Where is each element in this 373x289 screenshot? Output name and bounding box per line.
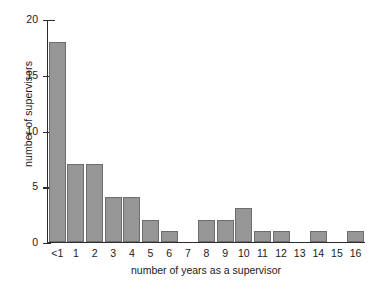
y-axis-tick: 0	[43, 243, 51, 244]
x-axis-tick-label: <1	[48, 246, 67, 260]
x-axis-tick-label: 1	[67, 246, 86, 260]
y-axis-title: number of supervisors	[22, 34, 34, 194]
y-axis-tick-label: 10	[26, 125, 38, 138]
bar[interactable]	[67, 164, 84, 242]
bar[interactable]	[198, 220, 215, 242]
x-axis-tick-label: 9	[216, 246, 235, 260]
x-axis-tick-label: 6	[160, 246, 179, 260]
x-axis-tick-labels: <112345678910111213141516	[48, 246, 365, 260]
bar[interactable]	[310, 231, 327, 242]
bar-slot	[346, 20, 365, 242]
x-axis-tick-label: 13	[290, 246, 309, 260]
bar-slot	[197, 20, 216, 242]
bar[interactable]	[254, 231, 271, 242]
x-axis-tick-label: 3	[104, 246, 123, 260]
x-axis-tick-label: 4	[123, 246, 142, 260]
bar[interactable]	[105, 197, 122, 241]
x-axis-tick-label: 2	[85, 246, 104, 260]
bar[interactable]	[347, 231, 364, 242]
y-axis-tick-label: 15	[26, 69, 38, 82]
x-axis-tick-label: 8	[197, 246, 216, 260]
bar-slot	[178, 20, 197, 242]
x-axis-tick-label: 5	[141, 246, 160, 260]
x-axis-tick-label: 10	[234, 246, 253, 260]
bar[interactable]	[49, 42, 66, 242]
bar-slot	[123, 20, 142, 242]
bar-slot	[141, 20, 160, 242]
y-axis-tick-label: 20	[26, 13, 38, 26]
bar-slot	[48, 20, 67, 242]
bar[interactable]	[235, 208, 252, 241]
x-axis-title: number of years as a supervisor	[47, 264, 365, 276]
bar-slot	[104, 20, 123, 242]
bar[interactable]	[86, 164, 103, 242]
bar-slot	[85, 20, 104, 242]
bar-slot	[328, 20, 347, 242]
bar-slot	[216, 20, 235, 242]
plot-area: 05101520	[47, 20, 365, 243]
bar-slot	[309, 20, 328, 242]
bar-slot	[160, 20, 179, 242]
bar[interactable]	[273, 231, 290, 242]
y-axis-tick-label: 0	[32, 236, 38, 249]
x-axis-tick-label: 12	[272, 246, 291, 260]
bar[interactable]	[161, 231, 178, 242]
bar-slot	[253, 20, 272, 242]
x-axis-tick-label: 11	[253, 246, 272, 260]
x-axis-tick-label: 14	[309, 246, 328, 260]
bar[interactable]	[123, 197, 140, 241]
bar[interactable]	[217, 220, 234, 242]
x-axis-tick-label: 15	[328, 246, 347, 260]
bars-group	[48, 20, 365, 242]
bar-slot	[67, 20, 86, 242]
bar-chart-figure: number of supervisors 05101520 <11234567…	[0, 0, 373, 289]
x-axis-tick-label: 16	[346, 246, 365, 260]
bar-slot	[290, 20, 309, 242]
bar-slot	[272, 20, 291, 242]
x-axis-line	[47, 242, 365, 243]
bar[interactable]	[142, 220, 159, 242]
x-axis-tick-label: 7	[178, 246, 197, 260]
y-axis-tick-label: 5	[32, 180, 38, 193]
bar-slot	[234, 20, 253, 242]
